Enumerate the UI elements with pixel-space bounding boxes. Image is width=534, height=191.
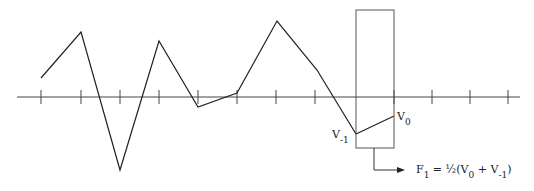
label-v0-base: V (397, 110, 405, 123)
label-v-minus1: V-1 (332, 129, 349, 140)
arrow-head-icon (397, 167, 405, 173)
formula-eq: = ½(V (429, 163, 468, 176)
label-v0: V0 (397, 111, 411, 122)
output-arrow-line (374, 148, 397, 170)
formula-lhs-sub: 1 (424, 170, 430, 180)
window-box (356, 10, 394, 148)
signal-waveform (41, 21, 394, 170)
label-v-minus1-sub: -1 (340, 135, 349, 145)
formula-label: F1 = ½(V0 + V-1) (416, 164, 511, 175)
formula-plus: + V (474, 163, 498, 176)
formula-lhs: F (416, 163, 424, 176)
formula-close: ) (507, 163, 511, 176)
label-v-minus1-base: V (332, 128, 340, 141)
formula-t1-sub: 0 (468, 170, 474, 180)
formula-t2-sub: -1 (498, 170, 507, 180)
label-v0-sub: 0 (405, 117, 411, 127)
